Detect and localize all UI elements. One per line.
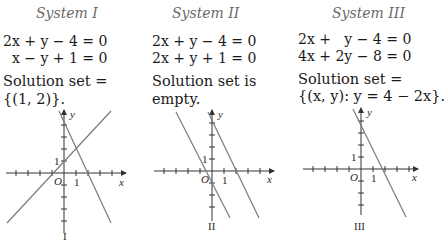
x-tick-label: 1 xyxy=(222,174,228,186)
x-tick-label: 1 xyxy=(371,172,377,184)
y-axis-label: y xyxy=(366,106,372,118)
graph-3: y x O 1 1 III xyxy=(303,106,418,232)
y-axis-label: y xyxy=(217,108,223,120)
origin-label: O xyxy=(54,175,62,187)
graph-1: y x O 1 1 I xyxy=(6,108,126,242)
line-2x-plus-y-minus-4 xyxy=(59,111,111,223)
graph-2-label: II xyxy=(208,220,216,232)
y-tick-label: 1 xyxy=(54,155,60,167)
graph-3-label: III xyxy=(354,220,365,232)
y-axis-label: y xyxy=(69,108,75,120)
line-2x-plus-y-minus-4 xyxy=(208,112,259,218)
line-x-minus-y-plus-1 xyxy=(7,111,111,223)
origin-label: O xyxy=(201,173,209,185)
y-tick-label: 1 xyxy=(351,151,357,163)
x-axis-label: x xyxy=(266,173,272,185)
x-axis-label: x xyxy=(411,171,417,183)
graph-1-label: I xyxy=(63,230,67,242)
origin-label: O xyxy=(350,171,358,183)
y-tick-label: 1 xyxy=(202,153,208,165)
x-axis-label: x xyxy=(118,176,124,188)
graph-2: y x O 1 1 II xyxy=(154,108,274,232)
line-2x-plus-y-plus-1 xyxy=(176,112,230,218)
x-tick-label: 1 xyxy=(74,176,80,188)
